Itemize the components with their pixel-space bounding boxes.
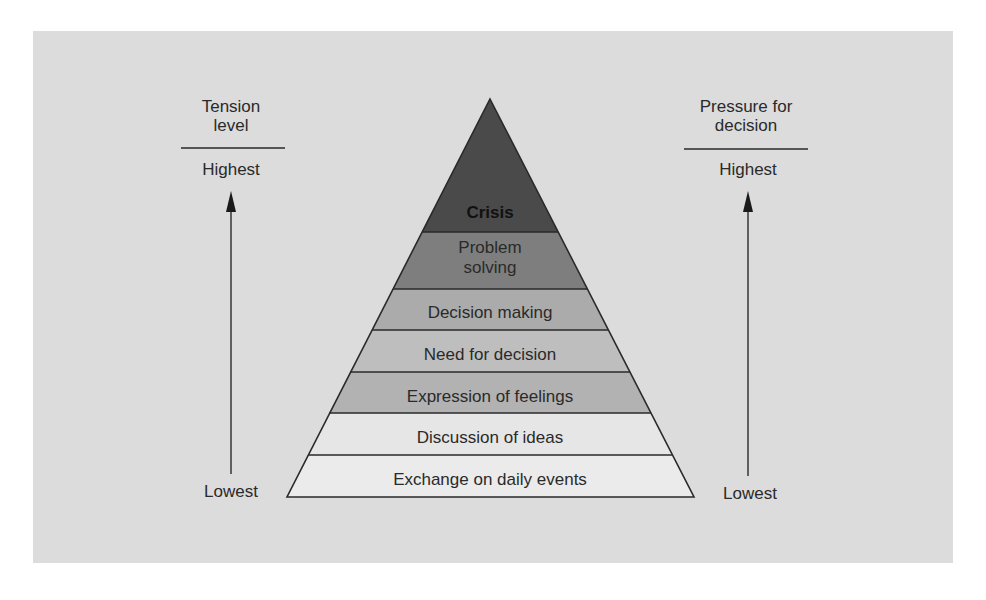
left-axis-title: Tension level — [171, 97, 291, 135]
left-arrow-up-icon — [226, 191, 236, 212]
band-label-exchange-daily-events: Exchange on daily events — [290, 470, 690, 490]
band-label-need-for-decision: Need for decision — [340, 345, 640, 365]
right-axis-title: Pressure for decision — [676, 97, 816, 135]
band-label-problem-solving: Problem solving — [390, 238, 590, 278]
left-axis-bottom-label: Lowest — [171, 482, 291, 501]
pyramid-diagram — [0, 0, 986, 600]
right-axis-top-label: Highest — [688, 160, 808, 179]
band-label-decision-making: Decision making — [340, 303, 640, 323]
left-axis-title-line2: level — [171, 116, 291, 135]
left-axis-title-line1: Tension — [171, 97, 291, 116]
right-arrow-up-icon — [743, 191, 753, 212]
band-label-problem-line2: solving — [390, 258, 590, 278]
right-axis-bottom-label: Lowest — [690, 484, 810, 503]
band-label-crisis: Crisis — [390, 203, 590, 223]
right-axis-title-line2: decision — [676, 116, 816, 135]
right-axis-title-line1: Pressure for — [676, 97, 816, 116]
band-label-discussion-of-ideas: Discussion of ideas — [320, 428, 660, 448]
left-axis-top-label: Highest — [171, 160, 291, 179]
band-label-problem-line1: Problem — [390, 238, 590, 258]
band-label-expression-of-feelings: Expression of feelings — [320, 387, 660, 407]
